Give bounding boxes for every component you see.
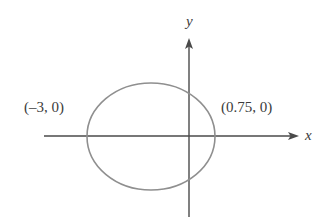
ellipse-figure: y x (–3, 0) (0.75, 0) bbox=[0, 0, 330, 223]
left-intercept-label: (–3, 0) bbox=[24, 100, 64, 115]
y-axis-label: y bbox=[186, 14, 193, 29]
x-axis-label: x bbox=[305, 128, 312, 143]
right-intercept-label: (0.75, 0) bbox=[221, 100, 272, 115]
